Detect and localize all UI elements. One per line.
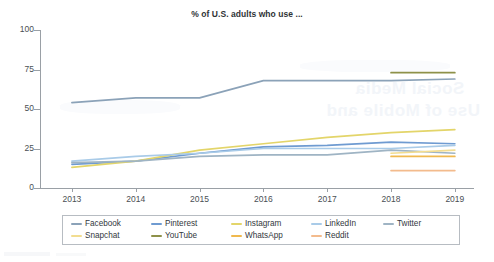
x-tick-label: 2018 (371, 194, 411, 204)
x-tick (391, 188, 392, 192)
legend-item-youtube[interactable]: YouTube (151, 231, 197, 240)
legend-swatch-reddit (311, 235, 322, 237)
y-tick-label: 25 (0, 143, 34, 153)
y-tick-label: 0 (0, 182, 34, 192)
x-tick (327, 188, 328, 192)
legend-label-snapchat: Snapchat (85, 231, 120, 240)
legend-item-reddit[interactable]: Reddit (311, 231, 349, 240)
legend-swatch-facebook (71, 223, 82, 225)
legend-swatch-linkedin (311, 223, 322, 225)
legend-label-facebook: Facebook (85, 219, 121, 228)
series-line-facebook (72, 79, 455, 103)
scan-artifact (56, 253, 86, 256)
legend-row-2: SnapchatYouTubeWhatsAppReddit (63, 231, 459, 245)
y-tick (34, 188, 40, 189)
legend-swatch-youtube (151, 235, 162, 237)
x-tick-label: 2014 (116, 194, 156, 204)
legend-item-whatsapp[interactable]: WhatsApp (231, 231, 283, 240)
x-tick (263, 188, 264, 192)
y-tick-label: 100 (0, 24, 34, 34)
chart-legend: FacebookPinterestInstagramLinkedInTwitte… (62, 215, 460, 245)
legend-item-pinterest[interactable]: Pinterest (151, 219, 197, 228)
y-tick-label: 50 (0, 103, 34, 113)
legend-item-snapchat[interactable]: Snapchat (71, 231, 120, 240)
chart-figure: Social MediaUse of Mobile and % of U.S. … (0, 0, 494, 262)
legend-item-instagram[interactable]: Instagram (231, 219, 281, 228)
chart-title: % of U.S. adults who use ... (0, 9, 494, 19)
x-tick (72, 188, 73, 192)
legend-swatch-pinterest (151, 223, 162, 225)
legend-swatch-instagram (231, 223, 242, 225)
legend-swatch-twitter (383, 223, 394, 225)
legend-label-youtube: YouTube (165, 231, 197, 240)
x-tick-label: 2013 (52, 194, 92, 204)
scan-artifact (4, 252, 50, 256)
legend-label-linkedin: LinkedIn (325, 219, 356, 228)
x-tick-label: 2019 (435, 194, 475, 204)
x-tick-label: 2016 (243, 194, 283, 204)
legend-item-linkedin[interactable]: LinkedIn (311, 219, 356, 228)
legend-swatch-whatsapp (231, 235, 242, 237)
x-tick (200, 188, 201, 192)
x-tick (136, 188, 137, 192)
x-axis-line (40, 188, 474, 189)
x-tick-label: 2015 (180, 194, 220, 204)
legend-label-twitter: Twitter (397, 219, 421, 228)
legend-label-instagram: Instagram (245, 219, 281, 228)
chart-plot-lines (40, 30, 474, 188)
legend-label-reddit: Reddit (325, 231, 349, 240)
x-tick-label: 2017 (307, 194, 347, 204)
legend-item-facebook[interactable]: Facebook (71, 219, 121, 228)
y-tick-label: 75 (0, 64, 34, 74)
legend-swatch-snapchat (71, 235, 82, 237)
legend-label-pinterest: Pinterest (165, 219, 197, 228)
legend-item-twitter[interactable]: Twitter (383, 219, 421, 228)
x-tick (455, 188, 456, 192)
legend-label-whatsapp: WhatsApp (245, 231, 283, 240)
